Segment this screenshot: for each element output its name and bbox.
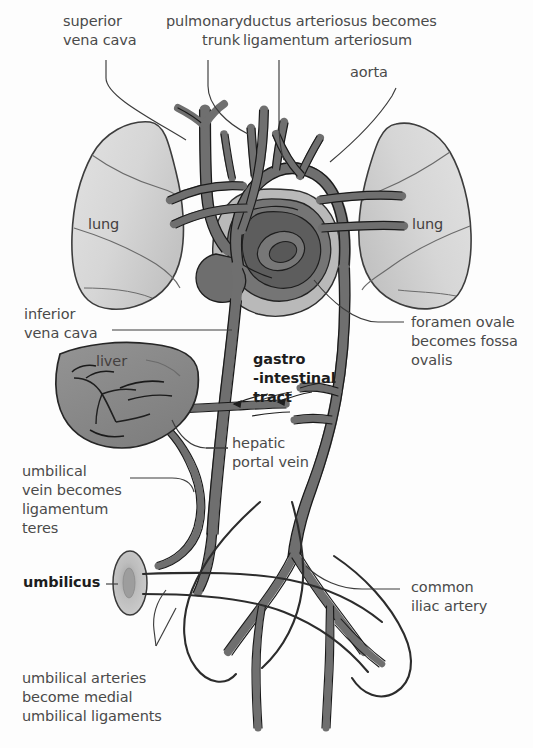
label-foramen-ovale: foramen ovale becomes fossa ovalis bbox=[411, 313, 518, 370]
liver bbox=[56, 342, 199, 448]
label-liver: liver bbox=[96, 352, 127, 371]
label-umbilical-arteries: umbilical arteries become medial umbilic… bbox=[22, 669, 162, 726]
label-pulmonary-trunk: pulmonary trunk bbox=[166, 12, 240, 50]
label-umbilicus: umbilicus bbox=[23, 573, 100, 592]
label-inferior-vena-cava: inferior vena cava bbox=[24, 305, 98, 343]
label-lung-right: lung bbox=[412, 215, 443, 234]
umbilicus bbox=[113, 551, 147, 615]
fetal-circulation-figure: superior vena cava pulmonary trunk ductu… bbox=[0, 0, 533, 748]
label-ductus-arteriosus: ductus arteriosus becomes ligamentum art… bbox=[243, 12, 437, 50]
label-superior-vena-cava: superior vena cava bbox=[63, 12, 137, 50]
label-common-iliac-artery: common iliac artery bbox=[411, 578, 487, 616]
label-gastrointestinal-tract: gastro -intestinal tract bbox=[253, 350, 336, 407]
label-umbilical-vein: umbilical vein becomes ligamentum teres bbox=[22, 462, 122, 537]
umbilical-arteries bbox=[143, 502, 411, 696]
label-hepatic-portal-vein: hepatic portal vein bbox=[232, 434, 309, 472]
label-aorta: aorta bbox=[350, 63, 388, 82]
label-lung-left: lung bbox=[88, 215, 119, 234]
